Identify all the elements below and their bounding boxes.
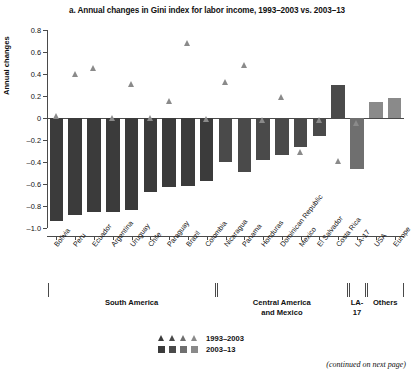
group-bracket xyxy=(349,283,350,297)
y-axis-tick xyxy=(43,140,47,141)
y-axis-tick-label: 0.8 xyxy=(31,26,41,35)
y-axis-tick-label: –0.2 xyxy=(27,136,41,145)
group-bracket xyxy=(215,283,216,297)
x-axis-label: Bolivia xyxy=(52,226,72,248)
group-bracket xyxy=(403,283,404,297)
legend-triangle-swatch xyxy=(158,335,164,341)
bar xyxy=(200,118,214,181)
chart-title: a. Annual changes in Gini index for labo… xyxy=(0,6,414,15)
bar xyxy=(144,118,158,192)
triangle-marker xyxy=(222,79,228,85)
group-label: Central Americaand Mexico xyxy=(217,298,347,317)
group-bracket xyxy=(347,283,348,297)
legend-label: 1993–2003 xyxy=(206,334,244,343)
legend-square-swatch xyxy=(191,346,198,353)
x-axis-label: Peru xyxy=(71,231,87,249)
bar xyxy=(162,118,176,187)
triangle-marker xyxy=(259,117,265,123)
bar xyxy=(219,118,233,162)
x-axis-label: LA-17 xyxy=(353,228,372,249)
triangle-marker xyxy=(335,158,341,164)
y-axis-tick-label: –0.8 xyxy=(27,202,41,211)
y-axis-tick xyxy=(43,228,47,229)
legend-triangle-swatch xyxy=(191,335,197,341)
y-axis-title: Annual changes xyxy=(2,36,11,95)
continued-note: (continued on next page) xyxy=(326,360,406,369)
x-axis-label: Chile xyxy=(146,230,163,248)
triangle-marker xyxy=(203,116,209,122)
triangle-marker xyxy=(184,40,190,46)
triangle-marker xyxy=(53,113,59,119)
y-axis-tick xyxy=(43,162,47,163)
bar xyxy=(294,118,308,147)
triangle-marker xyxy=(241,62,247,68)
group-bracket xyxy=(48,283,49,297)
bar xyxy=(68,118,82,215)
triangle-marker xyxy=(391,112,397,118)
group-label: LA-17 xyxy=(349,298,366,317)
y-axis-tick-label: 0.6 xyxy=(31,48,41,57)
triangle-marker xyxy=(147,115,153,121)
triangle-marker xyxy=(128,81,134,87)
triangle-marker xyxy=(109,115,115,121)
bar xyxy=(275,118,289,155)
legend-square-swatch xyxy=(158,346,165,353)
triangle-marker xyxy=(316,117,322,123)
bar xyxy=(256,118,270,160)
triangle-marker xyxy=(353,120,359,126)
bar xyxy=(125,118,139,210)
chart-figure: a. Annual changes in Gini index for labo… xyxy=(0,0,414,373)
group-bracket xyxy=(367,283,368,297)
triangle-marker xyxy=(278,94,284,100)
y-axis-tick xyxy=(43,206,47,207)
y-axis-line xyxy=(47,30,48,228)
legend-label: 2003–13 xyxy=(206,345,236,354)
triangle-marker xyxy=(166,98,172,104)
bar xyxy=(50,118,64,221)
legend-triangle-swatch xyxy=(180,335,186,341)
bar xyxy=(331,85,345,118)
bar xyxy=(87,118,101,212)
legend-triangle-swatch xyxy=(169,335,175,341)
y-axis-tick-label: –1.0 xyxy=(27,224,41,233)
group-label: Others xyxy=(367,298,403,308)
group-bracket xyxy=(365,283,366,297)
y-axis-tick-label: 0.4 xyxy=(31,70,41,79)
y-axis-tick xyxy=(43,118,47,119)
plot-area: 0.80.60.40.20–0.2–0.4–0.6–0.8–1.0 xyxy=(47,30,404,228)
triangle-marker xyxy=(72,71,78,77)
x-axis-label: USA xyxy=(372,231,388,248)
group-bracket xyxy=(217,283,218,297)
y-axis-tick xyxy=(43,52,47,53)
x-axis-label: Brazil xyxy=(184,229,202,249)
bar xyxy=(238,118,252,172)
y-axis-tick-label: –0.4 xyxy=(27,158,41,167)
triangle-marker xyxy=(297,149,303,155)
y-axis-tick xyxy=(43,96,47,97)
triangle-marker xyxy=(372,104,378,110)
y-axis-tick xyxy=(43,30,47,31)
bar xyxy=(181,118,195,186)
y-axis-tick-label: 0.2 xyxy=(31,92,41,101)
legend-square-swatch xyxy=(169,346,176,353)
y-axis-tick xyxy=(43,74,47,75)
group-label: South America xyxy=(48,298,215,308)
triangle-marker xyxy=(90,65,96,71)
bar xyxy=(106,118,120,212)
y-axis-tick-label: –0.6 xyxy=(27,180,41,189)
legend-square-swatch xyxy=(180,346,187,353)
y-axis-tick-label: 0 xyxy=(37,114,41,123)
y-axis-tick xyxy=(43,184,47,185)
